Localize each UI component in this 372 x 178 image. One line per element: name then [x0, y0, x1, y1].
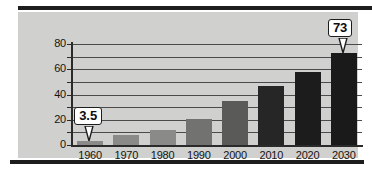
x-axis-label: 2010	[253, 149, 289, 161]
x-axis-label: 1970	[108, 149, 144, 161]
y-axis-labels: 020406080	[18, 12, 66, 158]
chart-figure: 020406080 196019701980199020002010202020…	[0, 0, 372, 178]
y-axis-label: 60	[54, 63, 66, 74]
y-axis-label: 40	[54, 89, 66, 100]
x-axis-label: 2020	[290, 149, 326, 161]
callout-pointer-icon	[338, 38, 354, 53]
x-axis-label: 1980	[145, 149, 181, 161]
y-axis-label: 80	[54, 38, 66, 49]
x-axis-label: 2030	[326, 149, 362, 161]
x-axis-labels: 19601970198019902000201020202030	[72, 12, 362, 158]
x-axis-label: 2000	[217, 149, 253, 161]
value-callout: 3.5	[74, 107, 102, 125]
top-rule	[18, 6, 372, 10]
x-axis-label: 1960	[72, 149, 108, 161]
value-callout: 73	[328, 19, 352, 37]
y-axis-label: 20	[54, 114, 66, 125]
y-axis-label: 0	[60, 139, 66, 150]
plot-panel: 020406080 196019701980199020002010202020…	[18, 12, 358, 158]
x-axis-label: 1990	[181, 149, 217, 161]
callout-pointer-icon	[84, 126, 100, 141]
